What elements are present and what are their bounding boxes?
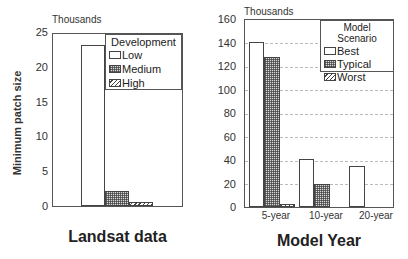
- legend-label: Worst: [337, 71, 366, 83]
- swatch-worst-icon: [324, 73, 336, 81]
- legend-item-worst: Worst: [324, 70, 390, 83]
- bar-5yr-typical: [264, 57, 280, 207]
- legend-label: Best: [337, 45, 359, 57]
- legend-item-low: Low: [109, 48, 178, 62]
- left-y-axis-label: Minimum patch size: [11, 68, 23, 178]
- left-ytick: 15: [26, 96, 48, 108]
- right-ytick: 160: [214, 13, 236, 25]
- bar-medium: [105, 191, 129, 206]
- left-unit-label: Thousands: [52, 14, 101, 25]
- left-ytick: 0: [26, 200, 48, 212]
- legend-item-best: Best: [324, 44, 390, 57]
- right-ytick: 20: [214, 178, 236, 190]
- right-ytick: 0: [214, 201, 236, 213]
- legend-item-high: High: [109, 76, 178, 90]
- xtick-10-year: 10-year: [304, 210, 348, 221]
- left-ytick: 25: [26, 26, 48, 38]
- swatch-high-icon: [109, 79, 121, 87]
- legend-item-medium: Medium: [109, 62, 178, 76]
- left-ytick: 5: [26, 165, 48, 177]
- bar-20yr-best: [349, 166, 365, 207]
- bar-high: [129, 202, 153, 206]
- left-legend: Development Low Medium High: [105, 34, 182, 90]
- right-legend: Model Scenario Best Typical Worst: [320, 20, 394, 72]
- bar-5yr-best: [249, 42, 264, 207]
- right-unit-label: Thousands: [244, 6, 293, 17]
- bar-5yr-worst: [280, 204, 295, 207]
- legend-label: High: [122, 77, 145, 89]
- bar-low: [81, 45, 105, 206]
- legend-label: Typical: [337, 58, 371, 70]
- swatch-best-icon: [324, 47, 336, 55]
- right-ytick: 40: [214, 154, 236, 166]
- bar-10yr-best: [299, 159, 314, 207]
- right-x-axis-title: Model Year: [244, 232, 394, 250]
- legend-item-typical: Typical: [324, 57, 390, 70]
- legend-label: Low: [122, 49, 142, 61]
- right-ytick: 80: [214, 107, 236, 119]
- swatch-low-icon: [109, 51, 121, 59]
- left-ytick: 10: [26, 130, 48, 142]
- legend-title: Model Scenario: [324, 22, 390, 44]
- right-ytick: 140: [214, 37, 236, 49]
- legend-label: Medium: [122, 63, 161, 75]
- bar-10yr-typical: [314, 184, 330, 207]
- right-ytick: 120: [214, 60, 236, 72]
- right-ytick: 100: [214, 84, 236, 96]
- legend-title: Development: [109, 36, 178, 48]
- xtick-20-year: 20-year: [354, 210, 398, 221]
- left-x-axis-title: Landsat data: [52, 228, 183, 246]
- left-ytick: 20: [26, 61, 48, 73]
- xtick-5-year: 5-year: [254, 210, 298, 221]
- swatch-typical-icon: [324, 60, 336, 68]
- swatch-medium-icon: [109, 65, 121, 73]
- right-ytick: 60: [214, 131, 236, 143]
